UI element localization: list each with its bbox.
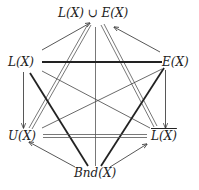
lattice-diagram: L(X) ∪ E(X) L(X) E(X) U(X) L(X) Bnd(X)	[0, 0, 199, 190]
edge-lx-to-top	[42, 23, 90, 50]
edge-bnd-to-ux	[29, 142, 75, 167]
edge-lx-to-bnd-thick	[30, 73, 88, 166]
node-bnd-label: Bnd(X)	[74, 166, 116, 180]
diagram-edges	[0, 0, 199, 190]
edge-ux-lbar-double	[43, 135, 147, 138]
node-ex-label: E(X)	[162, 55, 189, 69]
node-lbar-label: L(X)	[151, 129, 177, 143]
edge-bnd-to-lbar	[110, 144, 147, 167]
edge-ex-to-bnd-thick	[101, 68, 164, 166]
node-ux-label: U(X)	[8, 129, 36, 143]
node-top-label: L(X) ∪ E(X)	[58, 6, 128, 20]
edge-ex-to-top	[114, 27, 160, 52]
node-lx-label: L(X)	[8, 55, 34, 69]
